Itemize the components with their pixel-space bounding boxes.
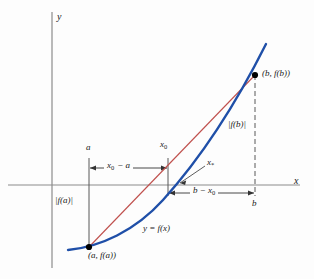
label-x-star-subscript: * [211,161,214,168]
x-axis-label: x [294,176,298,186]
label-curve-equation: y = f(x) [143,224,170,233]
point-marker-b [252,72,258,78]
label-x-star: x* [207,158,214,168]
math-figure: y x (b, f(b)) (a, f(a)) a b x0 x* |f(a)|… [0,0,314,279]
label-abs-f-a: |f(a)| [55,196,73,205]
tick-label-a: a [86,143,91,152]
figure-canvas [0,0,314,279]
tick-label-x0-subscript: 0 [164,143,167,150]
span-right-subscript: 0 [212,189,215,196]
span-right-prefix: b − x [193,185,212,195]
tick-label-x0: x0 [160,140,167,150]
y-axis-label: y [57,12,61,22]
label-span-b-minus-x0: b − x0 [190,186,218,196]
point-label-a: (a, f(a)) [88,251,116,260]
label-abs-f-b: |f(b)| [228,120,246,129]
tick-label-b: b [252,199,257,208]
span-left-suffix: − a [114,160,130,170]
label-span-x0-minus-a: x0− a [104,161,133,171]
point-label-b: (b, f(b)) [262,69,290,78]
